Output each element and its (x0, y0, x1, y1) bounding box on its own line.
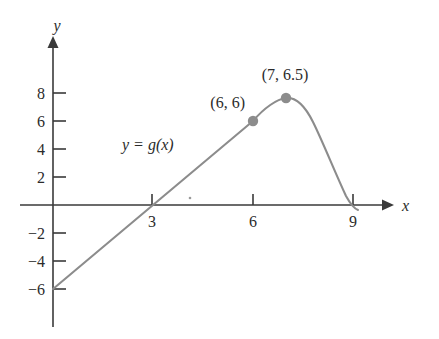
y-axis-label: y (51, 17, 61, 35)
data-point-7-6point5 (281, 93, 291, 103)
stray-speck-mark (189, 197, 192, 200)
graph-figure: 8 6 4 2 −2 −4 −6 3 6 9 x y y = g(x) (6, … (0, 0, 439, 339)
x-axis-arrow-icon (382, 200, 394, 211)
function-curve (53, 98, 358, 289)
y-tick-label-4: 4 (37, 141, 45, 158)
y-axis-arrow-icon (48, 36, 59, 48)
x-tick-label-6: 6 (249, 213, 257, 230)
y-tick-label-neg2: −2 (28, 225, 45, 242)
function-graph-plot: 8 6 4 2 −2 −4 −6 3 6 9 x y y = g(x) (6, … (0, 0, 439, 339)
x-axis-label: x (401, 197, 409, 214)
point-a-label: (6, 6) (210, 94, 245, 112)
x-tick-label-3: 3 (148, 213, 156, 230)
data-point-6-6 (248, 116, 258, 126)
y-tick-label-6: 6 (37, 113, 45, 130)
y-tick-label-neg6: −6 (28, 281, 45, 298)
point-b-label: (7, 6.5) (262, 66, 309, 84)
y-tick-label-2: 2 (37, 169, 45, 186)
y-tick-label-neg4: −4 (28, 253, 45, 270)
x-tick-label-9: 9 (349, 213, 357, 230)
curve-equation-label: y = g(x) (120, 136, 174, 154)
y-tick-label-8: 8 (37, 85, 45, 102)
